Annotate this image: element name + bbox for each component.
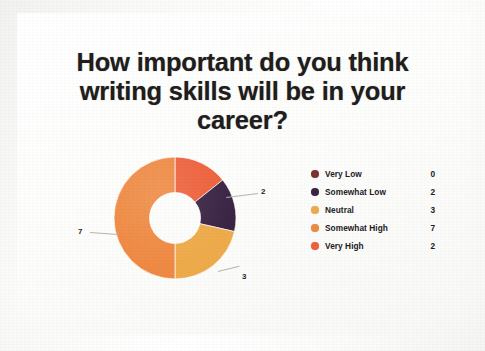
slide-canvas: How important do you think writing skill… <box>0 0 485 351</box>
legend-value: 3 <box>430 201 435 219</box>
data-label-somewhat-low: 2 <box>261 187 266 196</box>
donut-chart: 2 3 7 <box>58 146 290 296</box>
donut-slice-group <box>114 157 236 279</box>
legend-value: 2 <box>430 237 435 255</box>
legend-row[interactable]: Very Low0 <box>311 165 435 183</box>
legend-label: Very High <box>325 241 364 251</box>
donut-slice-somewhat-high[interactable] <box>114 157 175 279</box>
legend-color-swatch-icon <box>311 170 319 178</box>
page-title-line-2: writing skills will be in your <box>34 77 451 106</box>
legend-label: Somewhat High <box>325 223 388 233</box>
data-label-somewhat-high: 7 <box>78 227 83 236</box>
page-title-line-1: How important do you think <box>34 48 451 77</box>
legend-value: 0 <box>430 165 435 183</box>
legend-color-swatch-icon <box>311 188 319 196</box>
legend-color-swatch-icon <box>311 242 319 250</box>
legend-label: Neutral <box>325 205 354 215</box>
legend-color-swatch-icon <box>311 206 319 214</box>
legend-row[interactable]: Somewhat High7 <box>311 219 435 237</box>
chart-legend: Very Low0Somewhat Low2Neutral3Somewhat H… <box>311 165 435 255</box>
donut-slice-neutral[interactable] <box>175 224 234 279</box>
legend-color-swatch-icon <box>311 224 319 232</box>
legend-value: 2 <box>430 183 435 201</box>
page-title: How important do you think writing skill… <box>34 48 451 135</box>
page-title-line-3: career? <box>34 106 451 135</box>
legend-label: Very Low <box>325 169 362 179</box>
legend-label: Somewhat Low <box>325 187 386 197</box>
legend-row[interactable]: Very High2 <box>311 237 435 255</box>
legend-row[interactable]: Somewhat Low2 <box>311 183 435 201</box>
data-label-neutral: 3 <box>242 272 247 281</box>
donut-graphic <box>112 155 238 281</box>
legend-value: 7 <box>430 219 435 237</box>
legend-row[interactable]: Neutral3 <box>311 201 435 219</box>
donut-svg <box>112 155 238 281</box>
